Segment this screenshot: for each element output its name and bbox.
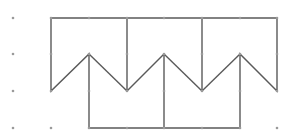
grid-dot: [201, 127, 204, 130]
grid-dot: [163, 53, 166, 56]
grid-dot: [50, 90, 53, 93]
grid-dot: [239, 127, 242, 130]
grid-dot: [276, 127, 279, 130]
grid-dot: [50, 53, 53, 56]
grid-dot: [201, 90, 204, 93]
grid-dot: [88, 53, 91, 56]
grid-dot: [163, 17, 166, 20]
grid-dot: [239, 17, 242, 20]
inner-segment: [127, 54, 164, 91]
grid-dot: [12, 17, 15, 20]
grid-dot: [201, 53, 204, 56]
grid-dot: [126, 127, 129, 130]
inner-segment: [89, 54, 127, 91]
grid-dot: [12, 53, 15, 56]
grid-dot: [163, 127, 166, 130]
grid-dot: [126, 90, 129, 93]
grid-dot: [50, 127, 53, 130]
grid-dot: [126, 53, 129, 56]
grid-dot: [88, 127, 91, 130]
grid-dot: [201, 17, 204, 20]
grid-dot: [276, 53, 279, 56]
figure-lines: [51, 18, 277, 128]
grid-dot: [239, 90, 242, 93]
grid-dot: [163, 90, 166, 93]
grid-dot: [88, 90, 91, 93]
inner-segment: [202, 54, 240, 91]
grid-dot: [88, 17, 91, 20]
grid-dot: [276, 17, 279, 20]
grid-dot: [239, 53, 242, 56]
grid-dot: [12, 90, 15, 93]
grid-dot: [126, 17, 129, 20]
grid-dot: [276, 90, 279, 93]
grid-dot: [12, 127, 15, 130]
dot-grid-diagram: [0, 0, 294, 134]
inner-segment: [164, 54, 202, 91]
grid-dot: [50, 17, 53, 20]
